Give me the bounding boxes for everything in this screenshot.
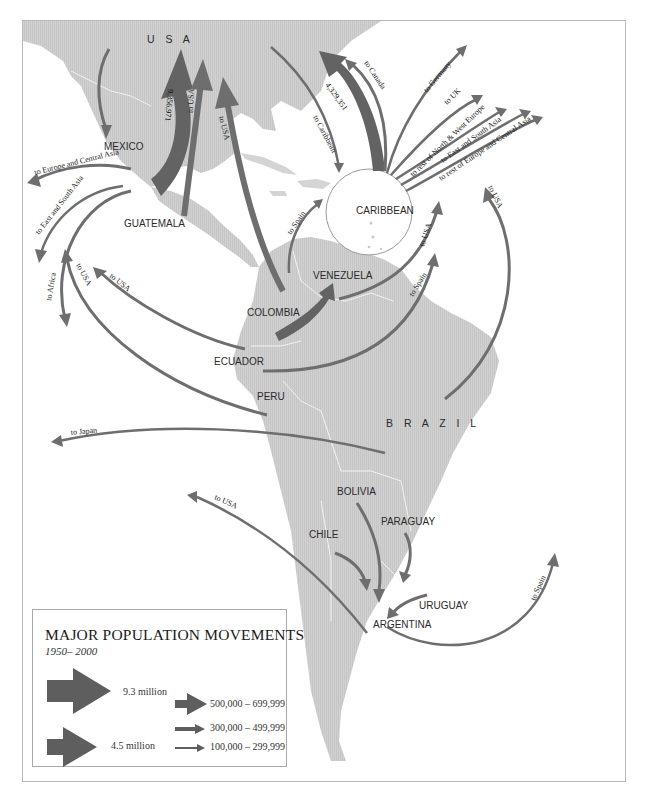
label-brazil: B R A Z I L: [386, 417, 480, 429]
legend-label-4-5-million: 4.5 million: [111, 740, 155, 751]
legend-arrow-300k-icon: [175, 724, 207, 734]
label-to-canada: to Canada: [362, 59, 388, 91]
label-uruguay: URUGUAY: [419, 600, 469, 611]
legend-arrow-4-5-million-icon: [47, 727, 103, 767]
label-usa: U S A: [147, 33, 194, 45]
legend-arrow-9-3-million-icon: [47, 668, 117, 714]
label-guatemala-to-usa: to USA: [186, 88, 196, 113]
label-paraguay: PARAGUAY: [381, 516, 435, 527]
label-bolivia: BOLIVIA: [337, 486, 376, 497]
label-guatemala: GUATEMALA: [124, 218, 185, 229]
legend-arrow-500k-icon: [175, 693, 209, 715]
label-chile-to-usa: to USA: [213, 493, 239, 511]
caribbean-islands: [241, 153, 331, 196]
legend-subtitle: 1950– 2000: [45, 645, 97, 657]
label-to-africa: to Africa: [44, 272, 58, 302]
legend-label-100k: 100,000 – 299,999: [210, 741, 285, 752]
value-caribbean-usa: 4,329,351: [323, 81, 349, 112]
legend-label-300k: 300,000 – 499,999: [210, 722, 285, 733]
legend-label-9-3-million: 9.3 million: [123, 686, 167, 697]
label-caribbean: CARIBBEAN: [356, 205, 414, 216]
legend-arrow-100k-icon: [175, 744, 207, 752]
legend-label-500k: 500,000 – 699,999: [210, 698, 285, 709]
label-peru-to-usa: to USA: [74, 262, 93, 288]
legend: MAJOR POPULATION MOVEMENTS 1950– 2000 9.…: [32, 609, 287, 767]
label-to-uk: to UK: [442, 86, 463, 106]
legend-title: MAJOR POPULATION MOVEMENTS: [45, 626, 304, 644]
label-chile: CHILE: [309, 529, 339, 540]
label-venezuela: VENEZUELA: [313, 270, 373, 281]
label-ecuador: ECUADOR: [214, 356, 264, 367]
label-peru: PERU: [257, 391, 285, 402]
label-colombia: COLOMBIA: [247, 307, 300, 318]
label-to-germany: to Germany: [422, 59, 453, 94]
label-venezuela-to-usa: to USA: [417, 222, 433, 248]
label-to-europe-central-asia: to Europe and Central Asia: [33, 147, 120, 177]
label-argentina: ARGENTINA: [373, 619, 432, 630]
